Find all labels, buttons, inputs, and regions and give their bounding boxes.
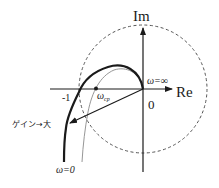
omega-cp-label: ωcp	[97, 90, 110, 102]
gain-increase-label: ゲイン→大	[12, 119, 51, 129]
omega-infinity-label: ω=∞	[147, 75, 168, 86]
nyquist-curve-low-gain	[82, 69, 143, 162]
omega-zero-label: ω=0	[56, 164, 75, 175]
minus-one-label: -1	[62, 92, 70, 103]
nyquist-diagram: Im Re 0 -1 ω=∞ ωcp ω=0 ゲイン→大	[0, 0, 219, 188]
omega-cp-symbol: ω	[97, 90, 104, 101]
nyquist-curve-high-gain	[64, 66, 143, 162]
imag-axis-label: Im	[133, 8, 150, 24]
real-axis-label: Re	[176, 84, 193, 100]
origin-label: 0	[148, 97, 155, 112]
omega-cp-subscript: cp	[104, 96, 110, 102]
